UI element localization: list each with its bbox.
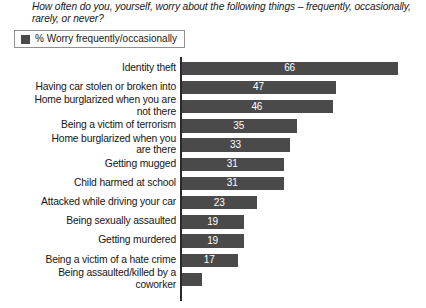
bar-category-label: Identity theft xyxy=(0,62,176,73)
bar-category-label: Having car stolen or broken into xyxy=(0,81,176,92)
bar-value-label: 17 xyxy=(204,255,215,265)
chart-question-title: How often do you, yourself, worry about … xyxy=(32,1,418,24)
bar-category-label: Being assaulted/killed by a coworker xyxy=(0,267,176,290)
chart-legend: % Worry frequently/occasionally xyxy=(14,30,185,48)
bar-row: Child harmed at school31 xyxy=(0,175,426,194)
bar-value-label: 46 xyxy=(251,102,262,112)
bar-category-label: Child harmed at school xyxy=(0,177,176,188)
bar-row: Getting mugged31 xyxy=(0,156,426,175)
bar-track: 46 xyxy=(182,100,333,114)
bar-value-label: 31 xyxy=(227,178,238,188)
bar[interactable]: 46 xyxy=(182,100,333,114)
legend-swatch-icon xyxy=(21,35,30,44)
bar-track xyxy=(182,273,202,287)
bar-track: 66 xyxy=(182,62,398,76)
bar-track: 19 xyxy=(182,234,244,248)
legend-series-label: % Worry frequently/occasionally xyxy=(35,34,177,44)
bar-category-label: Being a victim of terrorism xyxy=(0,119,176,130)
bar[interactable]: 47 xyxy=(182,81,336,95)
bar-value-label: 35 xyxy=(233,121,244,131)
bar-category-label: Home burglarized when you are not there xyxy=(0,94,176,117)
bar[interactable]: 35 xyxy=(182,119,297,133)
bar-value-label: 23 xyxy=(214,198,225,208)
bar-row: Getting murdered19 xyxy=(0,233,426,252)
bar-track: 33 xyxy=(182,138,290,152)
bar-track: 31 xyxy=(182,158,284,172)
bar-row: Attacked while driving your car23 xyxy=(0,194,426,213)
bar[interactable]: 17 xyxy=(182,254,238,268)
bar[interactable]: 31 xyxy=(182,177,284,191)
bar-row: Identity theft66 xyxy=(0,60,426,79)
bar[interactable]: 19 xyxy=(182,234,244,248)
bar[interactable]: 33 xyxy=(182,138,290,152)
bar-track: 23 xyxy=(182,196,257,210)
bar[interactable]: 19 xyxy=(182,215,244,229)
bar-row: Home burglarized when you are not there4… xyxy=(0,98,426,117)
chart-page: How often do you, yourself, worry about … xyxy=(0,0,426,308)
bar-category-label: Home burglarized when you are there xyxy=(0,133,176,156)
bar-track: 47 xyxy=(182,81,336,95)
bar-category-label: Attacked while driving your car xyxy=(0,196,176,207)
bar-row: Being sexually assaulted19 xyxy=(0,214,426,233)
bar-value-label: 19 xyxy=(207,217,218,227)
bar-category-label: Being sexually assaulted xyxy=(0,215,176,226)
bar[interactable]: 23 xyxy=(182,196,257,210)
bar[interactable]: 31 xyxy=(182,158,284,172)
bar-track: 19 xyxy=(182,215,244,229)
bar-category-label: Being a victim of a hate crime xyxy=(0,254,176,265)
bar-row: Home burglarized when you are there33 xyxy=(0,137,426,156)
bar-category-label: Getting murdered xyxy=(0,234,176,245)
bar[interactable] xyxy=(182,273,202,287)
bar-chart-plot-area: Identity theft66Having car stolen or bro… xyxy=(0,56,426,306)
bar-track: 31 xyxy=(182,177,284,191)
bar-value-label: 19 xyxy=(207,236,218,246)
bar-row: Being assaulted/killed by a coworker xyxy=(0,271,426,290)
bar[interactable]: 66 xyxy=(182,62,398,76)
bar-value-label: 31 xyxy=(227,159,238,169)
bar-category-label: Getting mugged xyxy=(0,158,176,169)
bar-value-label: 66 xyxy=(284,63,295,73)
bar-rows-container: Identity theft66Having car stolen or bro… xyxy=(0,56,426,306)
bar-track: 17 xyxy=(182,254,238,268)
bar-value-label: 47 xyxy=(253,82,264,92)
bar-track: 35 xyxy=(182,119,297,133)
bar-value-label: 33 xyxy=(230,140,241,150)
